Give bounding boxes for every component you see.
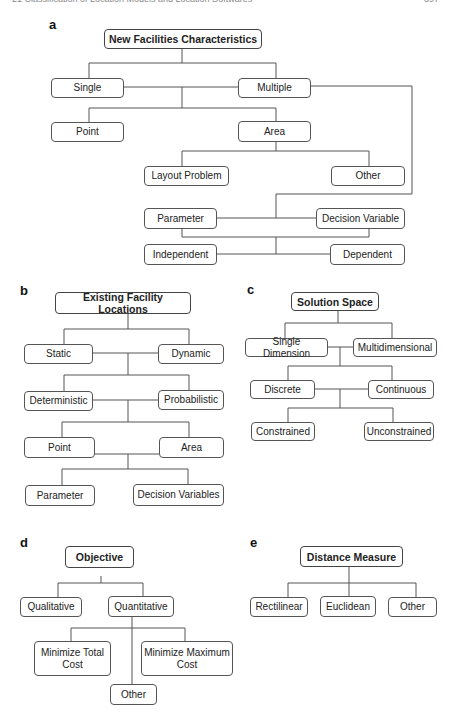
panel-label-c: c [247, 282, 254, 297]
node-qualitative: Qualitative [20, 597, 82, 617]
panel-label-b: b [20, 283, 28, 298]
node-unconstrained: Unconstrained [364, 422, 434, 441]
node-decision-variable: Decision Variable [316, 208, 405, 229]
node-minimize-maximum-cost: Minimize Maximum Cost [141, 641, 233, 676]
node-quantitative: Quantitative [108, 596, 174, 617]
node-static: Static [24, 344, 93, 364]
node-parameter: Parameter [25, 485, 95, 506]
node-independent: Independent [144, 244, 217, 265]
node-new-facilities-characteristics: New Facilities Characteristics [104, 29, 262, 49]
node-area: Area [238, 121, 311, 142]
node-objective: Objective [65, 546, 134, 568]
node-probabilistic: Probabilistic [158, 390, 224, 410]
node-dependent: Dependent [330, 244, 405, 265]
node-multiple: Multiple [238, 78, 311, 98]
node-existing-facility-locations: Existing Facility Locations [55, 292, 191, 314]
node-single-dimension: Single Dimension [245, 338, 328, 357]
panel-label-e: e [250, 535, 257, 550]
node-other: Other [388, 597, 437, 617]
node-continuous: Continuous [368, 380, 434, 399]
node-area: Area [159, 437, 224, 458]
node-discrete: Discrete [250, 380, 315, 399]
node-dynamic: Dynamic [158, 344, 224, 364]
node-deterministic: Deterministic [24, 391, 93, 411]
node-minimize-total-cost: Minimize Total Cost [34, 641, 111, 676]
node-point: Point [51, 122, 124, 142]
node-multidimensional: Multidimensional [353, 338, 437, 357]
node-constrained: Constrained [251, 422, 315, 441]
node-point: Point [24, 437, 95, 458]
node-distance-measure: Distance Measure [300, 546, 403, 567]
panel-label-a: a [49, 17, 56, 32]
node-rectilinear: Rectilinear [250, 597, 308, 617]
node-layout-problem: Layout Problem [144, 166, 229, 186]
node-decision-variables: Decision Variables [133, 484, 224, 506]
node-other: Other [110, 684, 157, 705]
node-parameter: Parameter [144, 208, 217, 229]
node-other: Other [331, 166, 405, 186]
node-euclidean: Euclidean [320, 596, 376, 617]
panel-label-d: d [20, 535, 28, 550]
node-solution-space: Solution Space [291, 292, 379, 311]
node-single: Single [51, 78, 124, 98]
